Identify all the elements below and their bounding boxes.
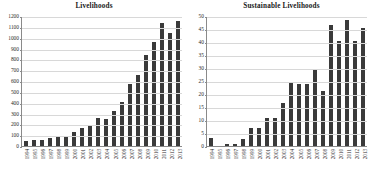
bar (40, 140, 45, 146)
y-tick-label: 15 (199, 105, 204, 110)
bar (209, 138, 214, 146)
x-slot: 1996 (222, 148, 230, 178)
y-tick-mark (20, 71, 22, 72)
bar (321, 91, 326, 146)
x-slot: 2002 (270, 148, 278, 178)
gridline (207, 121, 367, 122)
y-tick-label: 5 (201, 131, 204, 136)
y-tick-label: 1100 (8, 25, 19, 30)
y-tick-mark (20, 93, 22, 94)
x-slot: 2007 (311, 148, 319, 178)
x-slot: 1999 (246, 148, 254, 178)
x-slot: 1999 (61, 148, 69, 178)
bar (273, 118, 278, 146)
x-slot: 2006 (118, 148, 126, 178)
x-tick-label: 2013 (178, 149, 183, 159)
y-tick-label: 1200 (8, 14, 19, 19)
gridline (207, 82, 367, 83)
y-tick-label: 300 (11, 112, 19, 117)
y-tick-label: 0 (16, 144, 19, 149)
y-tick-label: 25 (199, 79, 204, 84)
gridline (207, 69, 367, 70)
y-tick-mark (20, 136, 22, 137)
y-tick-mark (205, 121, 207, 122)
bar (257, 128, 262, 146)
y-tick-label: 700 (11, 68, 19, 73)
bar (249, 128, 254, 146)
y-tick-label: 45 (199, 27, 204, 32)
plot-area-sustainable-livelihoods (206, 17, 367, 147)
figure-container: Livelihoods 0100200300400500600700800900… (0, 0, 375, 178)
y-tick-label: 10 (199, 118, 204, 123)
x-axis-livelihoods: 1994199519961997199819992000200120022003… (21, 148, 182, 178)
x-slot: 2011 (158, 148, 166, 178)
bar (144, 55, 149, 146)
y-tick-mark (205, 17, 207, 18)
bar (72, 132, 77, 146)
chart-title-sustainable-livelihoods: Sustainable Livelihoods (188, 0, 375, 13)
x-slot: 2006 (303, 148, 311, 178)
bar (225, 144, 230, 146)
y-tick-label: 600 (11, 79, 19, 84)
y-tick-label: 200 (11, 123, 19, 128)
x-slot: 2000 (69, 148, 77, 178)
gridline (207, 43, 367, 44)
bar (96, 118, 101, 146)
y-tick-mark (205, 108, 207, 109)
y-tick-mark (205, 56, 207, 57)
gridline (22, 93, 182, 94)
x-slot: 2001 (262, 148, 270, 178)
x-slot: 2009 (327, 148, 335, 178)
bar (112, 111, 117, 146)
bar (104, 119, 109, 146)
gridline (22, 60, 182, 61)
y-tick-label: 30 (199, 66, 204, 71)
x-slot: 2003 (278, 148, 286, 178)
gridline (207, 30, 367, 31)
y-tick-label: 40 (199, 40, 204, 45)
bar (160, 23, 165, 147)
x-slot: 2010 (150, 148, 158, 178)
x-slot: 2009 (142, 148, 150, 178)
bar (305, 84, 310, 146)
x-slot: 1995 (29, 148, 37, 178)
gridline (22, 115, 182, 116)
bar (48, 138, 53, 146)
x-slot: 2010 (335, 148, 343, 178)
bar (281, 103, 286, 146)
x-slot: 2003 (93, 148, 101, 178)
x-tick-label: 2013 (363, 149, 368, 159)
y-tick-mark (20, 50, 22, 51)
y-tick-label: 1000 (8, 36, 19, 41)
chart-title-livelihoods: Livelihoods (0, 0, 188, 13)
bar (289, 82, 294, 146)
x-slot: 1997 (45, 148, 53, 178)
x-slot: 1994 (21, 148, 29, 178)
bar (233, 144, 238, 146)
x-slot: 2005 (110, 148, 118, 178)
gridline (22, 104, 182, 105)
x-slot: 2000 (254, 148, 262, 178)
y-tick-mark (20, 82, 22, 83)
gridline (207, 17, 367, 18)
bar (176, 21, 181, 146)
x-slot: 2012 (351, 148, 359, 178)
gridline (207, 95, 367, 96)
x-slot: 2001 (77, 148, 85, 178)
bar (297, 84, 302, 146)
y-tick-mark (205, 69, 207, 70)
gridline (207, 134, 367, 135)
gridline (22, 17, 182, 18)
bar (152, 42, 157, 146)
bar (353, 41, 358, 146)
gridline (207, 108, 367, 109)
y-tick-label: 400 (11, 101, 19, 106)
x-slot: 1997 (230, 148, 238, 178)
y-axis-livelihoods: 0100200300400500600700800900100011001200 (1, 17, 21, 147)
x-slot: 1996 (37, 148, 45, 178)
x-axis-sustainable-livelihoods: 1994199519961997199819992000200120022003… (206, 148, 367, 178)
y-tick-mark (205, 30, 207, 31)
gridline (22, 82, 182, 83)
bar (265, 118, 270, 146)
y-tick-mark (20, 17, 22, 18)
